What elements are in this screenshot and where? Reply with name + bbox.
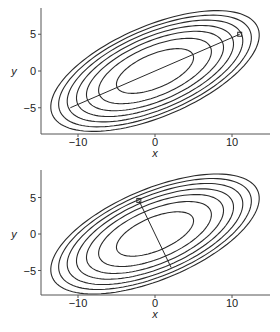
x-tick-label: 10 [226, 297, 238, 309]
x-tick-label: −10 [69, 297, 88, 309]
bottom-contour-plot: −10010−505xy [0, 166, 280, 332]
y-tick-label: −5 [23, 265, 36, 277]
y-axis-label: y [10, 228, 18, 240]
y-tick-label: 5 [30, 28, 36, 40]
y-tick-label: −5 [23, 102, 36, 114]
x-tick-label: −10 [69, 136, 88, 148]
minor-axis-line [139, 200, 171, 267]
x-axis-label: x [151, 147, 158, 159]
figure: −10010−505xy −10010−505xy [0, 0, 280, 332]
x-tick-label: 10 [226, 136, 238, 148]
top-contour-plot: −10010−505xy [0, 0, 280, 166]
y-axis-label: y [10, 65, 18, 77]
y-tick-label: 0 [30, 228, 36, 240]
y-tick-label: 5 [30, 192, 36, 204]
y-tick-label: 0 [30, 65, 36, 77]
x-axis-label: x [151, 308, 158, 320]
